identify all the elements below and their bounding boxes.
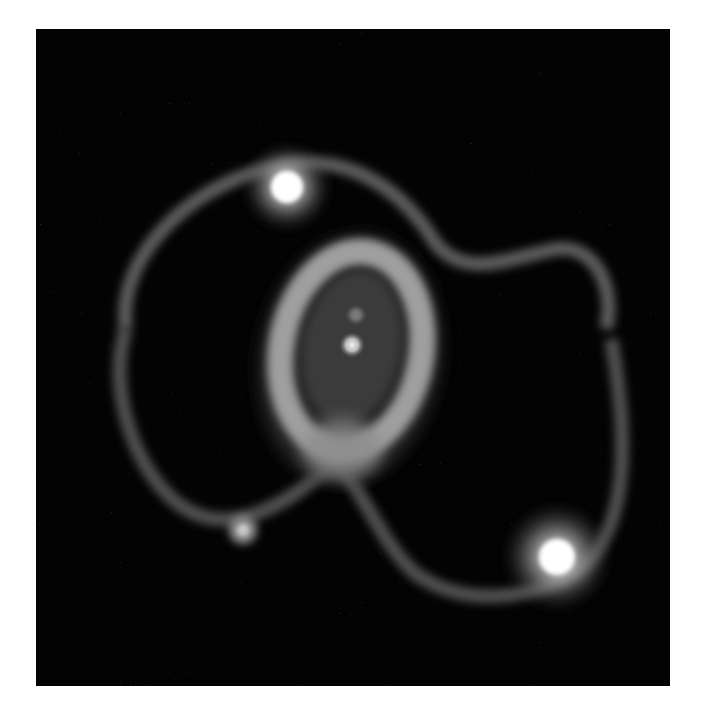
astronomical-image xyxy=(36,29,670,686)
star-lower-right xyxy=(502,502,612,612)
star-upper-left xyxy=(242,142,332,232)
nebula-render xyxy=(36,29,670,686)
faint-source-lower-left xyxy=(229,516,257,544)
ring-tail xyxy=(302,419,382,479)
central-knot xyxy=(349,308,363,322)
central-source xyxy=(339,332,365,358)
